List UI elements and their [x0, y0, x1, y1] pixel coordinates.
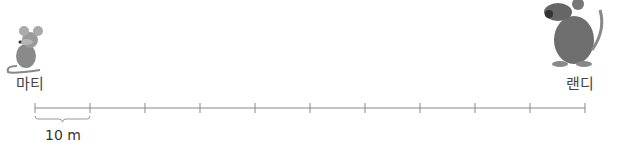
left-character-name: 마티: [16, 72, 44, 93]
rat-icon: [544, 0, 602, 67]
brace: [35, 116, 90, 122]
right-character-name: 랜디: [566, 72, 594, 93]
scale-unit-label: 10 m: [45, 127, 81, 143]
number-line-diagram: [0, 0, 628, 149]
number-line: [35, 103, 585, 113]
mouse-icon: [8, 26, 43, 73]
